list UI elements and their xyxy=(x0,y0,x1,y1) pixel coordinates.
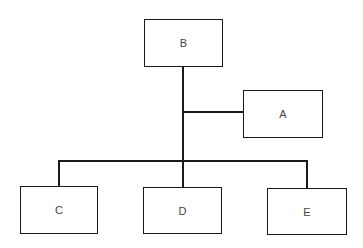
node-d-label: D xyxy=(179,205,187,217)
drop-to-c xyxy=(58,160,60,186)
node-a: A xyxy=(243,90,323,138)
trunk-line xyxy=(182,67,184,187)
bus-line xyxy=(58,160,308,162)
drop-to-e xyxy=(306,160,308,188)
node-a-label: A xyxy=(279,108,286,120)
node-c-label: C xyxy=(55,204,63,216)
node-d: D xyxy=(143,187,222,234)
connector-to-a xyxy=(182,111,243,113)
node-c: C xyxy=(20,186,98,234)
node-e-label: E xyxy=(303,206,310,218)
node-b: B xyxy=(144,19,223,67)
org-chart-diagram: B A C D E xyxy=(0,0,363,248)
node-e: E xyxy=(267,188,347,235)
node-b-label: B xyxy=(180,37,187,49)
